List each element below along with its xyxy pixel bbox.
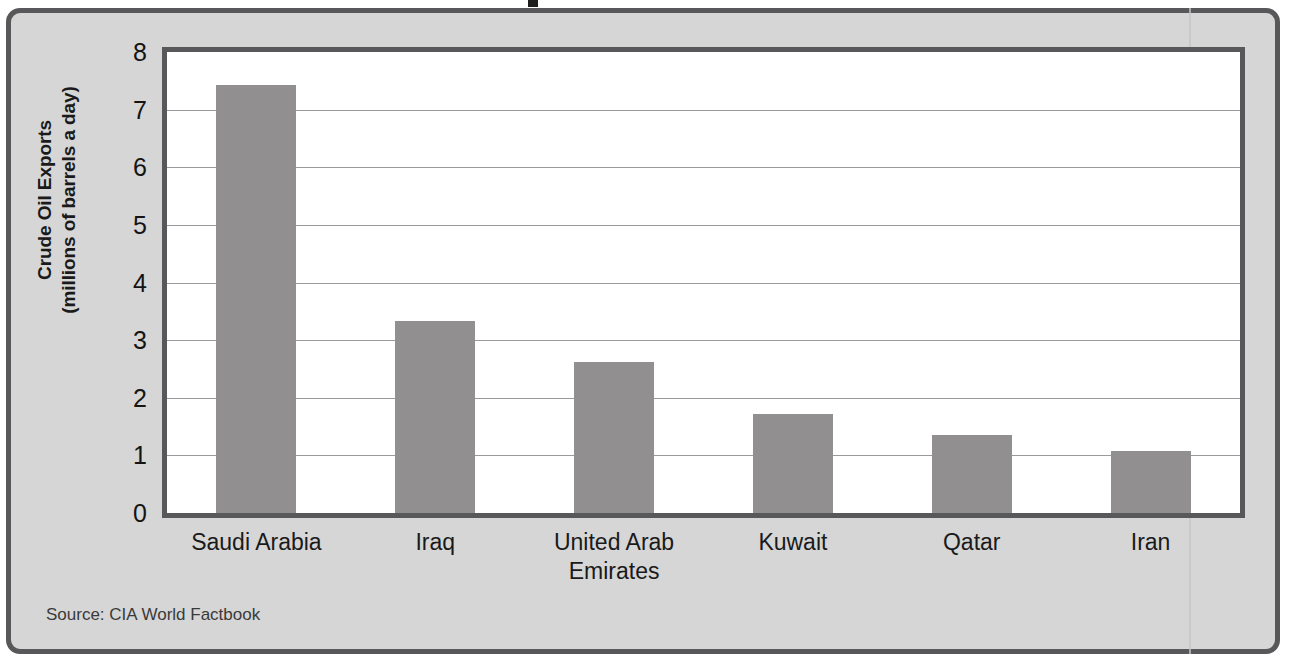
- gridline: [167, 283, 1240, 284]
- bar[interactable]: [1111, 451, 1191, 513]
- source-note: Source: CIA World Factbook: [46, 605, 260, 625]
- y-axis-title-line1: Crude Oil Exports: [33, 120, 57, 280]
- figure-container: Crude Oil Exports (millions of barrels a…: [0, 0, 1292, 667]
- y-axis-title: Crude Oil Exports (millions of barrels a…: [29, 35, 85, 365]
- bar[interactable]: [574, 362, 654, 513]
- bar[interactable]: [753, 414, 833, 513]
- x-axis-tick-label: Iran: [1041, 528, 1261, 557]
- gridline: [167, 110, 1240, 111]
- gridline: [167, 398, 1240, 399]
- bar[interactable]: [395, 321, 475, 513]
- gridline: [167, 455, 1240, 456]
- plot-area: [162, 47, 1245, 518]
- bar[interactable]: [932, 435, 1012, 513]
- plot-inner: [167, 52, 1240, 513]
- y-axis-title-line2: (millions of barrels a day): [57, 86, 81, 313]
- cut-off-title-fragment: [528, 0, 538, 7]
- gridline: [167, 340, 1240, 341]
- gridline: [167, 167, 1240, 168]
- gridline: [167, 225, 1240, 226]
- x-axis-tick-label-line: Emirates: [504, 557, 724, 586]
- x-axis-tick-label-line: Iran: [1041, 528, 1261, 557]
- bar[interactable]: [216, 85, 296, 513]
